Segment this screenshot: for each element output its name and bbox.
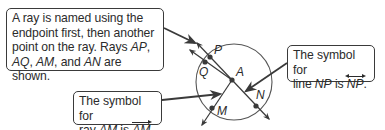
callout-ray-naming: A ray is named using the endpoint first,… [6, 8, 164, 71]
callout-line: endpoint first, then another [12, 26, 158, 41]
callout-line: The symbol for [79, 94, 156, 123]
label-p: P [214, 43, 222, 57]
point-p [207, 54, 212, 59]
callout-line: AQ, AM, and AN are shown. [12, 55, 158, 84]
callout-line-symbol: The symbol for line NP is NP. [287, 45, 375, 82]
pointer-arrow-ray-symbol [162, 94, 220, 100]
callout-ray-symbol: The symbol for ray AM is AM. [73, 91, 162, 125]
callout-line: point on the ray. Rays AP, [12, 40, 158, 55]
callout-line: The symbol for [293, 48, 369, 77]
point-q [202, 59, 207, 64]
ray-am [202, 80, 232, 125]
ray-symbol: AM [132, 123, 150, 130]
pointer-arrow-line-symbol [246, 63, 287, 91]
pointer-arrow-ray-naming [164, 28, 195, 43]
line-symbol: NP [347, 77, 364, 92]
label-m: M [217, 104, 227, 118]
callout-line: A ray is named using the [12, 11, 158, 26]
callout-line: line NP is NP. [293, 77, 369, 92]
label-a: A [235, 65, 244, 79]
point-a [229, 77, 234, 82]
callout-line: ray AM is AM. [79, 123, 156, 130]
label-q: Q [199, 65, 208, 79]
label-n: N [256, 88, 265, 102]
point-n [253, 103, 258, 108]
point-m [209, 105, 214, 110]
